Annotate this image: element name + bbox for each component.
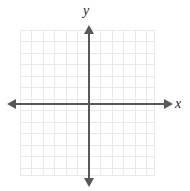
coordinate-plane-figure: y x [0, 0, 190, 191]
y-axis-label: y [83, 4, 89, 18]
arrow-up-icon [84, 25, 94, 34]
x-axis-label: x [175, 97, 181, 111]
arrow-right-icon [164, 99, 173, 109]
arrow-down-icon [84, 178, 94, 187]
horizontal-axis [14, 103, 167, 105]
arrow-left-icon [7, 99, 16, 109]
vertical-axis [88, 33, 90, 180]
